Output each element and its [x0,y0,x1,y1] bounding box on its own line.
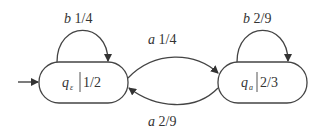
automaton-diagram: q ε 1/2 q a 2/3 b 1/4 b 2/9 a 1/4 a 2/9 [0,0,321,136]
edge-label-eps-to-a: a 1/4 [148,32,176,47]
edge-label-a-to-eps: a 2/9 [148,114,176,129]
edge-label-left-loop: b 1/4 [64,11,92,26]
state-name: q [241,75,248,90]
self-loop-right [237,30,288,62]
edge-label-right-loop: b 2/9 [243,11,271,26]
state-q-epsilon[interactable]: q ε 1/2 [39,62,128,103]
state-subscript: a [249,83,253,92]
state-prob: 2/3 [260,75,278,90]
edge-a-to-eps [129,88,218,105]
self-loop-left [57,30,108,62]
edge-eps-to-a [128,57,218,78]
state-prob: 1/2 [83,75,101,90]
state-q-a[interactable]: q a 2/3 [218,62,307,103]
state-name: q [62,75,69,90]
